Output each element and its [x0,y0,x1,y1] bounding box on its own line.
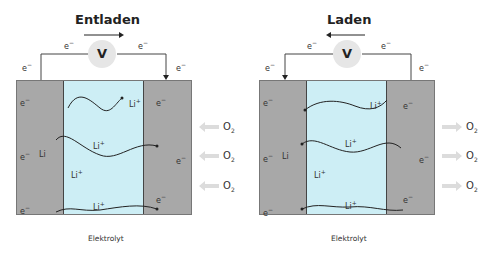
oxygen-label: O2 [223,180,235,193]
oxygen-label: O2 [466,180,478,193]
electron-label: e− [403,193,413,205]
electron-label: e− [263,152,273,164]
electron-label: e− [176,154,186,166]
anode-label: Li [282,152,289,161]
electrolyte-caption: Elektrolyt [331,234,367,243]
electron-label: e− [20,204,30,216]
oxygen-inflow-arrows [195,118,225,198]
ion-label: Li+ [370,99,382,111]
electron-label: e− [263,96,273,108]
oxygen-label: O2 [223,121,235,134]
ion-label: Li+ [345,199,357,211]
electron-label: e− [403,99,413,111]
ion-label: Li+ [93,139,105,151]
electron-label: e− [20,150,30,162]
anode-label: Li [39,150,46,159]
electron-label: e− [419,153,429,165]
ion-label: Li+ [314,168,326,180]
oxygen-label: O2 [466,121,478,134]
oxygen-label: O2 [466,150,478,163]
electron-label: e− [263,206,273,218]
ion-label: Li+ [71,168,83,180]
oxygen-label: O2 [223,150,235,163]
electrolyte-caption: Elektrolyt [88,234,124,243]
electron-label: e− [156,193,166,205]
oxygen-outflow-arrows [438,118,468,198]
electron-label: e− [20,96,30,108]
electron-label: e− [156,96,166,108]
ion-label: Li+ [129,97,141,109]
ion-label: Li+ [93,200,105,212]
ion-label: Li+ [345,137,357,149]
